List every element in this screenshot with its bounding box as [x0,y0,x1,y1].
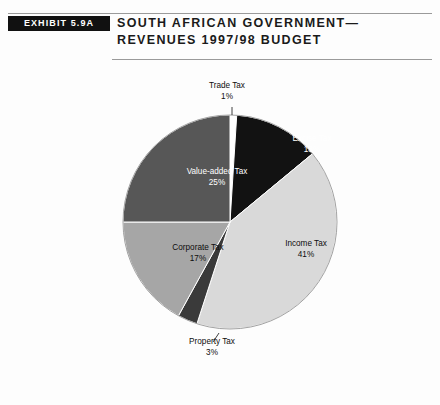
leader-line-property [213,333,219,342]
exhibit-badge-label: EXHIBIT 5.9A [8,16,110,31]
pie-chart-svg [0,66,440,405]
pie-slice-value-added-tax [123,115,230,222]
page-title-line-2: Revenues 1997/98 Budget [117,32,429,49]
header-rule-bottom [112,59,432,60]
pie-slice-group [123,115,337,329]
exhibit-page: EXHIBIT 5.9A South African Government— R… [0,0,440,405]
exhibit-badge: EXHIBIT 5.9A [8,16,110,31]
page-title: South African Government— Revenues 1997/… [117,15,429,49]
header-rule-top [8,13,432,14]
page-title-line-1: South African Government— [117,15,429,32]
pie-chart: Trade Tax 1% Excise Tax 13% Income Tax 4… [0,66,440,405]
